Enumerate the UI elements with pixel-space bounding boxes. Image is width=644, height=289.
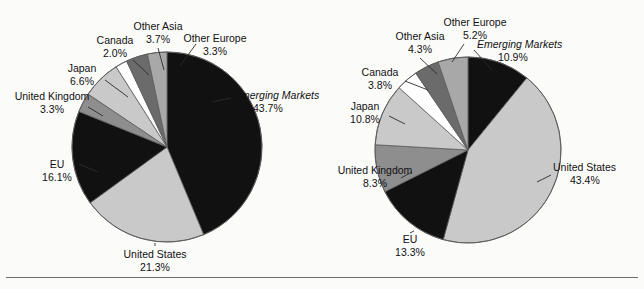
right-label-eu-name: EU	[403, 233, 418, 245]
right-label-united-states: United States 43.4%	[553, 161, 616, 186]
right-label-japan-value: 10.8%	[350, 113, 380, 125]
right-label-united-states-value: 43.4%	[570, 174, 600, 186]
left-label-emerging-markets-name: Emerging Markets	[234, 89, 320, 101]
left-label-japan-name: Japan	[68, 62, 97, 74]
left-label-eu-name: EU	[50, 158, 65, 170]
pie-charts-figure: Emerging Markets 43.7% United States 21.…	[0, 0, 644, 289]
right-label-united-kingdom-name: United Kingdom	[338, 164, 413, 176]
left-label-canada: Canada 2.0%	[97, 34, 134, 59]
left-pie-chart	[72, 52, 262, 242]
right-label-eu-value: 13.3%	[395, 246, 425, 258]
left-label-japan-value: 6.6%	[70, 75, 94, 87]
right-label-canada-name: Canada	[362, 66, 399, 78]
left-label-canada-value: 2.0%	[103, 47, 127, 59]
left-label-united-states-name: United States	[123, 248, 186, 260]
right-label-emerging-markets-value: 10.9%	[498, 51, 528, 63]
left-label-canada-name: Canada	[97, 34, 134, 46]
right-label-canada: Canada 3.8%	[362, 66, 399, 91]
left-label-other-asia-name: Other Asia	[133, 20, 182, 32]
left-label-other-europe-value: 3.3%	[203, 45, 227, 57]
left-label-united-states: United States 21.3%	[123, 248, 186, 273]
right-label-other-asia: Other Asia 4.3%	[395, 30, 444, 55]
left-label-united-states-value: 21.3%	[140, 261, 170, 273]
left-label-eu: EU 16.1%	[42, 158, 72, 183]
left-label-other-asia-value: 3.7%	[146, 33, 170, 45]
right-label-other-asia-value: 4.3%	[408, 43, 432, 55]
left-label-other-europe: Other Europe 3.3%	[183, 32, 246, 57]
left-label-united-kingdom: United Kingdom 3.3%	[15, 90, 90, 115]
right-label-emerging-markets-name: Emerging Markets	[477, 38, 563, 50]
left-label-japan: Japan 6.6%	[68, 62, 97, 87]
bottom-divider-rule	[6, 277, 638, 278]
left-label-other-asia: Other Asia 3.7%	[133, 20, 182, 45]
right-label-united-kingdom-value: 8.3%	[363, 177, 387, 189]
left-label-united-kingdom-value: 3.3%	[40, 103, 64, 115]
right-label-eu: EU 13.3%	[395, 233, 425, 258]
left-label-united-kingdom-name: United Kingdom	[15, 90, 90, 102]
left-label-eu-value: 16.1%	[42, 171, 72, 183]
right-label-other-europe-value: 5.2%	[463, 29, 487, 41]
right-pie-chart	[375, 57, 561, 243]
right-label-other-asia-name: Other Asia	[395, 30, 444, 42]
right-label-other-europe-name: Other Europe	[443, 16, 506, 28]
figure-canvas: Emerging Markets 43.7% United States 21.…	[0, 0, 644, 289]
right-label-japan: Japan 10.8%	[350, 100, 380, 125]
left-label-emerging-markets-value: 43.7%	[253, 102, 283, 114]
left-label-other-europe-name: Other Europe	[183, 32, 246, 44]
right-label-united-states-name: United States	[553, 161, 616, 173]
right-label-canada-value: 3.8%	[368, 79, 392, 91]
right-label-japan-name: Japan	[351, 100, 380, 112]
